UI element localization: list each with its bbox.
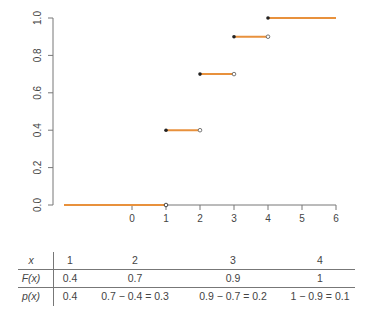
table-divider-vertical (53, 252, 54, 306)
pmf-table: x F(x) p(x) 1 2 3 4 0.4 0.7 0.9 1 0.4 0.… (0, 0, 371, 317)
table-cell: 0.7 − 0.4 = 0.3 (101, 290, 169, 302)
table-divider-row1 (18, 269, 355, 270)
row-header-x: x (28, 254, 33, 266)
table-cell: 0.9 (226, 272, 241, 284)
table-cell: 3 (230, 254, 236, 266)
row-header-fx: F(x) (22, 272, 41, 284)
table-cell: 1 − 0.9 = 0.1 (291, 290, 350, 302)
table-cell: 0.9 − 0.7 = 0.2 (199, 290, 267, 302)
row-header-px: p(x) (22, 290, 40, 302)
table-cell: 0.4 (63, 290, 78, 302)
table-divider-row2 (18, 287, 355, 288)
table-cell: 2 (132, 254, 138, 266)
table-cell: 0.4 (63, 272, 78, 284)
table-cell: 0.7 (128, 272, 143, 284)
table-cell: 1 (317, 272, 323, 284)
table-cell: 1 (67, 254, 73, 266)
table-cell: 4 (317, 254, 323, 266)
